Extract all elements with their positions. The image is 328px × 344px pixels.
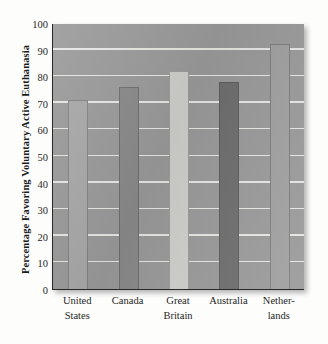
y-axis-tick-100: 100 [18, 19, 48, 30]
y-axis-tick-30: 30 [18, 205, 48, 216]
bar-netherlands [270, 44, 290, 289]
bar-united-states [68, 100, 88, 289]
y-axis-tick-90: 90 [18, 45, 48, 56]
y-axis-tick-40: 40 [18, 178, 48, 189]
x-label-netherlands: Nether-lands [254, 294, 304, 323]
y-axis-tick-labels: 0102030405060708090100 [18, 0, 48, 344]
x-label-australia: Australia [203, 294, 253, 309]
bar-australia [219, 82, 239, 289]
y-axis-tick-10: 10 [18, 258, 48, 269]
plot-area [52, 24, 304, 290]
chart-figure: Percentage Favoring Voluntary Active Eut… [0, 0, 328, 344]
y-axis-tick-60: 60 [18, 125, 48, 136]
x-label-great-britain: GreatBritain [153, 294, 203, 323]
y-axis-tick-20: 20 [18, 231, 48, 242]
x-label-canada: Canada [102, 294, 152, 309]
bar-great-britain [169, 71, 189, 289]
x-axis-category-labels: UnitedStatesCanadaGreatBritainAustraliaN… [52, 294, 304, 340]
y-axis-tick-0: 0 [18, 285, 48, 296]
y-axis-tick-80: 80 [18, 72, 48, 83]
x-label-united-states: UnitedStates [52, 294, 102, 323]
bar-canada [119, 87, 139, 289]
y-axis-tick-50: 50 [18, 152, 48, 163]
y-axis-tick-70: 70 [18, 98, 48, 109]
gridline-90 [53, 48, 304, 49]
